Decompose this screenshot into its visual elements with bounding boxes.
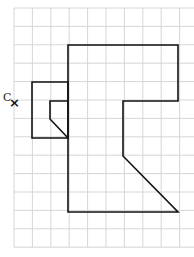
grid-diagram [0, 0, 194, 257]
cross-mark-icon: × [9, 95, 20, 110]
shapes [32, 45, 178, 212]
inner-shape [50, 101, 68, 138]
